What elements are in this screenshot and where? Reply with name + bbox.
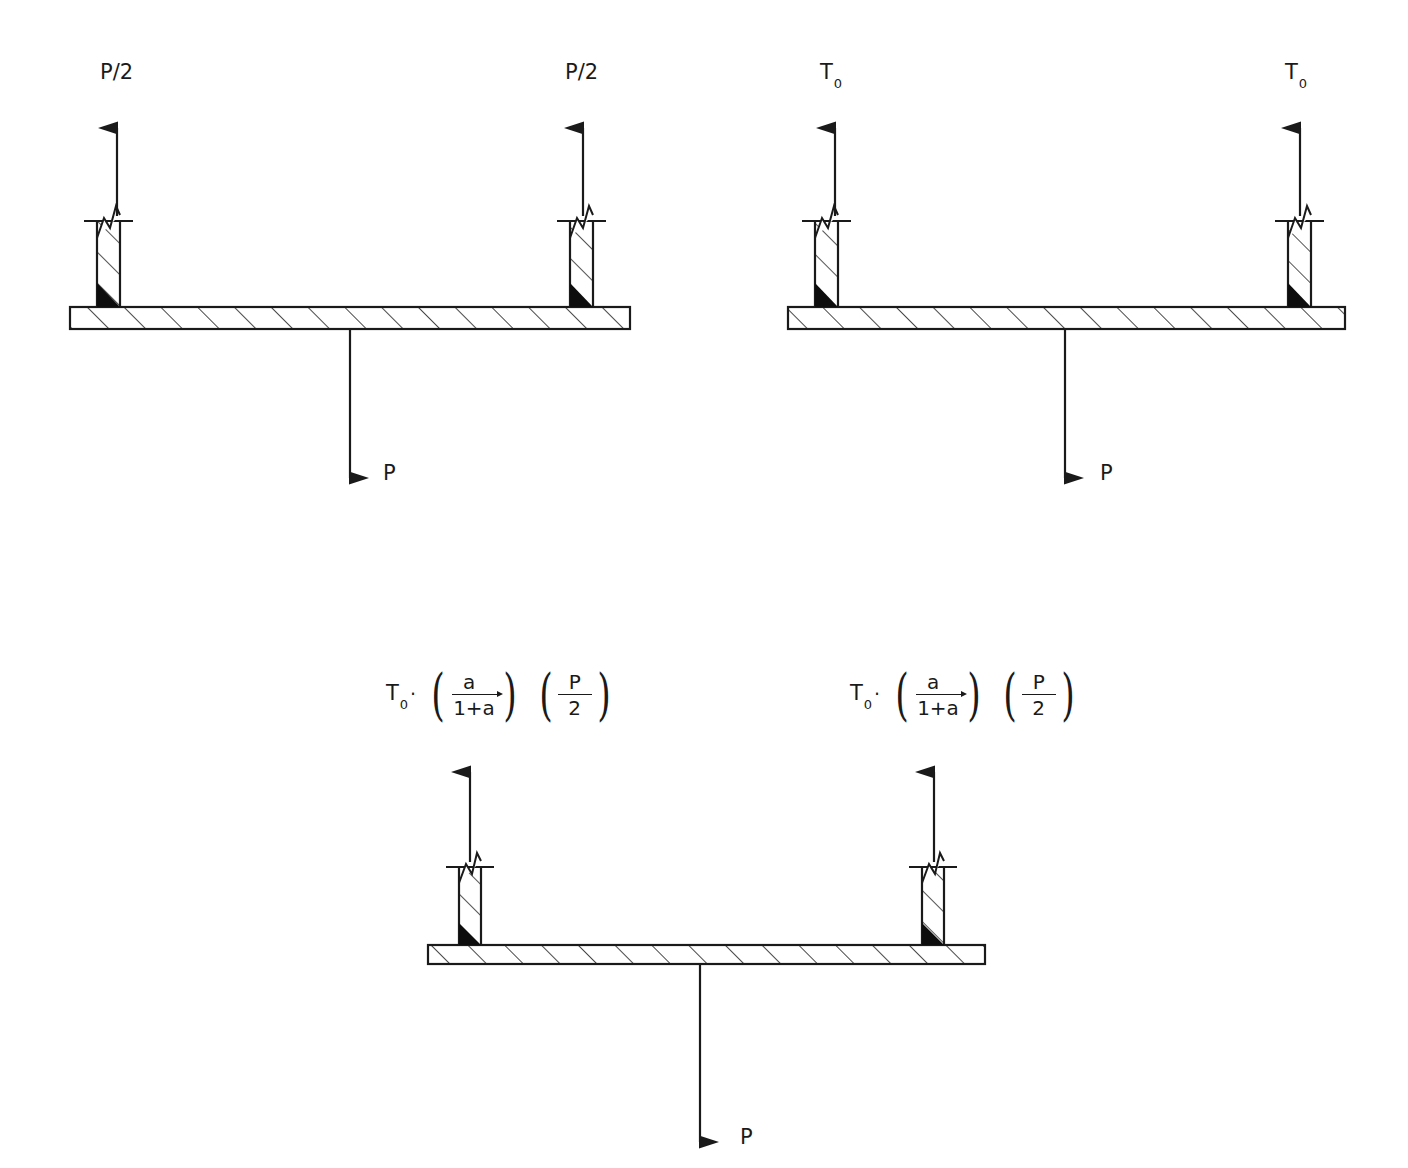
- beam: [428, 945, 985, 964]
- paren-open-icon: (: [1003, 675, 1017, 715]
- paren-close-icon: ): [967, 675, 981, 715]
- fraction-numerator: a: [460, 672, 478, 694]
- support-column-right: [557, 206, 606, 307]
- term-a-over-1plusa: ( a 1+a ): [427, 672, 521, 718]
- diagram-top-left: [70, 128, 630, 478]
- reaction-label-right-2: T0: [1285, 62, 1306, 86]
- diagram-bottom: [428, 772, 985, 1142]
- fraction-denominator: 2: [1029, 695, 1048, 718]
- load-label-3: P: [740, 1127, 753, 1148]
- paren-open-icon: (: [895, 675, 909, 715]
- support-column-right: [1275, 206, 1324, 307]
- beam: [788, 307, 1345, 329]
- paren-close-icon: ): [503, 675, 517, 715]
- term-p-over-2: ( P 2 ): [535, 672, 615, 718]
- fraction-numerator: P: [1030, 672, 1048, 694]
- reaction-label-right-1: P/2: [565, 62, 598, 83]
- fraction-bar: [1022, 694, 1056, 695]
- fraction-bar-arrow-icon: [916, 694, 962, 695]
- reaction-formula-right-3: T0 · ( a 1+a ) ( P 2 ): [850, 672, 1079, 718]
- formula-base: T0: [850, 683, 871, 707]
- paren-open-icon: (: [539, 675, 553, 715]
- fraction-denominator: 1+a: [450, 695, 498, 718]
- paren-close-icon: ): [1061, 675, 1075, 715]
- beam: [70, 307, 630, 329]
- load-label-1: P: [383, 463, 396, 484]
- load-label-2: P: [1100, 463, 1113, 484]
- diagram-canvas: [0, 0, 1408, 1168]
- reaction-label-left-2: T0: [820, 62, 841, 86]
- fraction-denominator: 1+a: [914, 695, 962, 718]
- term-p-over-2: ( P 2 ): [999, 672, 1079, 718]
- fraction-bar-arrow-icon: [452, 694, 498, 695]
- support-column-left: [446, 853, 494, 945]
- fraction-numerator: P: [566, 672, 584, 694]
- term-a-over-1plusa: ( a 1+a ): [891, 672, 985, 718]
- reaction-label-left-1: P/2: [100, 62, 133, 83]
- multiplication-dot: ·: [874, 685, 880, 704]
- fraction-bar: [558, 694, 592, 695]
- support-column-left: [84, 206, 133, 307]
- diagram-top-right: [788, 128, 1345, 478]
- support-column-left: [802, 206, 851, 307]
- paren-close-icon: ): [597, 675, 611, 715]
- reaction-formula-left-3: T0 · ( a 1+a ) ( P 2 ): [386, 672, 615, 718]
- support-column-right: [909, 853, 957, 945]
- paren-open-icon: (: [431, 675, 445, 715]
- fraction-numerator: a: [924, 672, 942, 694]
- fraction-denominator: 2: [565, 695, 584, 718]
- formula-base: T0: [386, 683, 407, 707]
- multiplication-dot: ·: [410, 685, 416, 704]
